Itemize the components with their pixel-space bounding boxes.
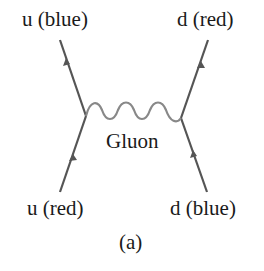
arrow-icon xyxy=(197,61,205,68)
feynman-diagram: u (blue) d (red) Gluon u (red) d (blue) … xyxy=(0,0,264,271)
quark-line-top-right xyxy=(181,40,208,118)
label-top-left-particle: u (blue) xyxy=(22,9,88,30)
label-bottom-right-particle: d (blue) xyxy=(170,198,236,219)
arrow-icon xyxy=(69,154,77,161)
label-gluon: Gluon xyxy=(106,131,159,152)
label-bottom-left-particle: u (red) xyxy=(27,198,84,219)
quark-line-top-left xyxy=(60,40,86,116)
gluon-wave xyxy=(86,103,181,122)
caption: (a) xyxy=(119,232,142,253)
label-top-right-particle: d (red) xyxy=(177,9,234,30)
quark-line-bottom-right xyxy=(181,118,207,192)
quark-line-bottom-left xyxy=(60,116,86,192)
arrow-icon xyxy=(190,150,197,158)
